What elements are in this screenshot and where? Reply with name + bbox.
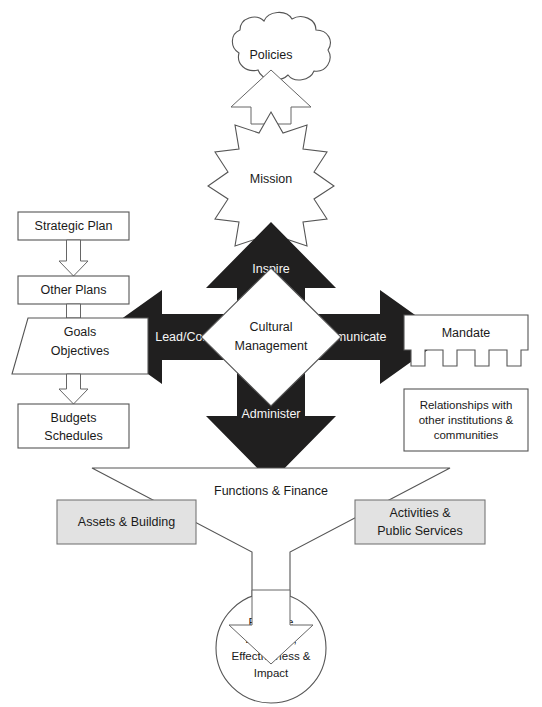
relationships-label-line3: communities xyxy=(434,429,499,441)
mission-label: Mission xyxy=(250,172,292,186)
node-assets-building: Assets & Building xyxy=(57,500,196,544)
diagram-canvas: Policies Mission Inspire Administer Lead… xyxy=(0,0,542,707)
node-cultural-management: Cultural Management xyxy=(201,268,341,406)
node-relationships: Relationships with other institutions & … xyxy=(404,389,528,451)
hollow-stem-icon xyxy=(67,304,81,318)
administer-label: Administer xyxy=(241,407,300,421)
node-other-plans: Other Plans xyxy=(18,276,129,304)
mandate-label: Mandate xyxy=(442,326,491,340)
budgets-label-line1: Budgets xyxy=(51,411,97,425)
comb-rectangle-shape xyxy=(404,315,528,366)
cultural-management-diagram: Policies Mission Inspire Administer Lead… xyxy=(0,0,542,707)
other-plans-label: Other Plans xyxy=(40,283,106,297)
goals-label-line1: Goals xyxy=(64,325,97,339)
policies-label: Policies xyxy=(249,48,292,62)
node-budgets-schedules: Budgets Schedules xyxy=(18,404,129,448)
assets-building-label: Assets & Building xyxy=(78,515,175,529)
goals-label-line2: Objectives xyxy=(51,344,109,358)
strategic-plan-label: Strategic Plan xyxy=(35,219,113,233)
connector-goals-to-budgets xyxy=(59,374,88,404)
relationships-label-line1: Relationships with xyxy=(420,399,513,411)
connector-other-plans-to-goals xyxy=(67,304,81,318)
hollow-arrow-down-icon xyxy=(59,240,88,276)
node-activities-public-services: Activities & Public Services xyxy=(355,500,485,544)
hollow-arrow-down-icon xyxy=(59,374,88,404)
evaluate-label-line4: Impact xyxy=(254,667,289,679)
functions-finance-label: Functions & Finance xyxy=(214,484,328,498)
activities-label-line1: Activities & xyxy=(389,506,451,520)
node-goals-objectives: Goals Objectives xyxy=(12,318,148,374)
diamond-shape xyxy=(201,268,341,406)
cloud-shape xyxy=(232,12,330,80)
connector-strategic-to-other-plans xyxy=(59,240,88,276)
center-label-line2: Management xyxy=(235,339,308,353)
page-caption xyxy=(0,691,542,707)
node-policies: Policies xyxy=(232,12,330,80)
center-label-line1: Cultural xyxy=(249,320,292,334)
node-strategic-plan: Strategic Plan xyxy=(18,212,129,240)
activities-label-line2: Public Services xyxy=(377,524,462,538)
relationships-label-line2: other institutions & xyxy=(419,414,514,426)
node-mandate: Mandate xyxy=(404,315,528,366)
budgets-label-line2: Schedules xyxy=(44,429,102,443)
